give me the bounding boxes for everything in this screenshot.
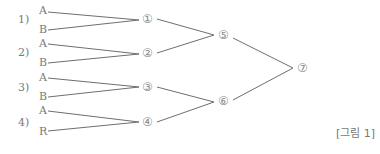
group-label-2: 2) bbox=[18, 47, 29, 59]
node-5: ⑤ bbox=[218, 29, 229, 41]
group-label-1: 1) bbox=[18, 14, 29, 26]
leaf-a-2: A bbox=[39, 38, 47, 50]
leaf-b-2: B bbox=[39, 57, 47, 69]
group-label-3: 3) bbox=[18, 82, 29, 94]
node-6: ⑥ bbox=[218, 95, 229, 107]
figure-caption: [그림 1] bbox=[336, 128, 375, 140]
group-label-4: 4) bbox=[18, 117, 29, 129]
node-2: ② bbox=[142, 47, 153, 59]
leaf-b-4: R bbox=[39, 126, 47, 138]
leaf-b-1: B bbox=[39, 24, 47, 36]
node-7-root: ⑦ bbox=[297, 62, 308, 74]
node-3: ③ bbox=[142, 81, 153, 93]
node-1: ① bbox=[142, 13, 153, 25]
leaf-a-1: A bbox=[39, 5, 47, 17]
leaf-a-4: A bbox=[39, 105, 47, 117]
leaf-a-3: A bbox=[39, 72, 47, 84]
node-4: ④ bbox=[142, 116, 153, 128]
leaf-b-3: B bbox=[39, 91, 47, 103]
tournament-tree-lines bbox=[0, 0, 380, 154]
